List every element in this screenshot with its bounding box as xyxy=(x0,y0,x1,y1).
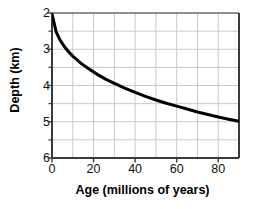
x-tick-label: 0 xyxy=(34,162,70,176)
chart-figure: Depth (km) 2 3 4 5 6 xyxy=(0,0,254,209)
x-tick-label: 80 xyxy=(200,162,236,176)
x-axis-tick-labels: 0 20 40 60 80 xyxy=(0,162,254,182)
x-tick-label: 60 xyxy=(159,162,195,176)
x-tick-label: 40 xyxy=(117,162,153,176)
x-tick-label: 20 xyxy=(76,162,112,176)
grid-lines xyxy=(52,13,239,158)
x-axis-title: Age (millions of years) xyxy=(40,183,245,197)
